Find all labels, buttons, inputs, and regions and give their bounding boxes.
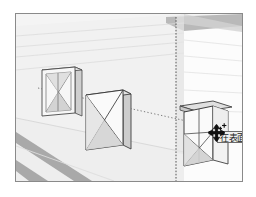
corner-shade [176,14,184,154]
modeling-viewport[interactable]: 在表面上 [15,13,243,182]
inference-tooltip: 在表面上 [217,131,243,143]
screenshot-root: 在表面上 [0,0,256,197]
window-panel-left[interactable] [42,67,82,116]
panel-mid-depth-face [123,90,131,149]
window-panel-middle[interactable] [86,90,131,150]
scene-canvas[interactable] [16,14,242,181]
panel-left-depth-face [75,67,82,116]
